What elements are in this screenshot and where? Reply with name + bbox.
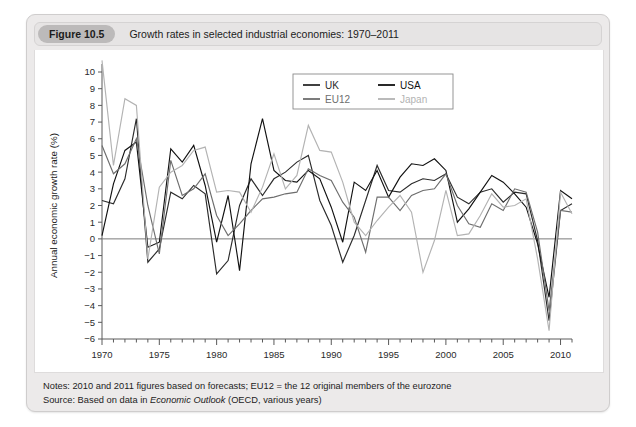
legend-label-japan: Japan [400,94,427,105]
legend-label-usa: USA [400,80,421,91]
y-tick-label: 7 [90,116,95,127]
x-tick-label: 2005 [493,349,514,360]
source-prefix: Source: Based on data in [43,395,150,405]
source-suffix: (OECD, various years) [225,395,321,405]
y-tick-label: −6 [84,333,95,344]
y-tick-label: 10 [84,66,95,77]
y-tick-label: 8 [90,100,95,111]
figure-notes: Notes: 2010 and 2011 figures based on fo… [43,379,597,408]
series-line-usa [102,119,572,298]
x-tick-label: 1975 [149,349,170,360]
y-axis-title: Annual economic growth rate (%) [48,133,59,278]
chart-plot-area: −6−5−4−3−2−10123456789101970197519801985… [34,50,604,373]
notes-line: Notes: 2010 and 2011 figures based on fo… [43,379,597,393]
x-tick-label: 1980 [206,349,227,360]
figure-panel: Figure 10.5 Growth rates in selected ind… [26,14,610,412]
y-tick-label: 6 [90,133,95,144]
y-tick-label: −1 [84,250,95,261]
y-tick-label: 0 [90,233,95,244]
legend-box [293,74,453,109]
figure-number-badge: Figure 10.5 [38,25,115,43]
y-tick-label: −2 [84,267,95,278]
y-tick-label: −3 [84,283,95,294]
x-tick-label: 2000 [435,349,456,360]
source-line: Source: Based on data in Economic Outloo… [43,393,597,407]
y-tick-label: −5 [84,317,95,328]
y-tick-label: 4 [90,167,95,178]
figure-title: Growth rates in selected industrial econ… [129,28,398,40]
y-tick-label: −4 [84,300,95,311]
growth-rates-line-chart: −6−5−4−3−2−10123456789101970197519801985… [35,50,604,373]
legend-label-eu12: EU12 [325,94,350,105]
x-tick-label: 2010 [550,349,571,360]
y-tick-label: 3 [90,183,95,194]
figure-header: Figure 10.5 Growth rates in selected ind… [34,22,602,46]
chart-legend: UKUSAEU12Japan [293,74,453,109]
x-tick-label: 1985 [263,349,284,360]
x-tick-label: 1990 [321,349,342,360]
x-tick-label: 1995 [378,349,399,360]
y-tick-label: 1 [90,217,95,228]
source-publication: Economic Outlook [150,395,225,405]
y-tick-label: 5 [90,150,95,161]
legend-label-uk: UK [325,80,339,91]
y-tick-label: 2 [90,200,95,211]
series-line-uk [102,119,572,321]
x-tick-label: 1970 [91,349,112,360]
y-tick-label: 9 [90,83,95,94]
